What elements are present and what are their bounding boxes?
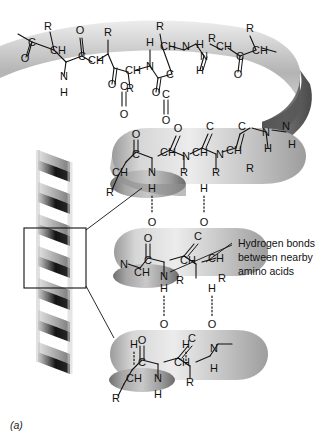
svg-text:H: H	[60, 86, 68, 98]
hydrogen-bond: H O	[160, 282, 169, 330]
svg-text:N: N	[262, 126, 270, 138]
svg-text:H: H	[288, 138, 296, 150]
svg-text:C: C	[162, 88, 170, 100]
svg-text:R: R	[246, 162, 254, 174]
svg-text:CH: CH	[160, 40, 176, 52]
peptide-backbone-linker: C O C O	[120, 80, 171, 126]
svg-text:C: C	[236, 50, 244, 62]
svg-text:C: C	[132, 148, 140, 160]
svg-text:O: O	[148, 216, 157, 228]
svg-text:O: O	[160, 318, 169, 330]
svg-text:O: O	[138, 334, 147, 346]
small-helix-overview	[38, 150, 70, 374]
svg-text:O: O	[21, 52, 30, 64]
svg-text:O: O	[76, 24, 85, 36]
svg-text:R: R	[44, 20, 52, 32]
svg-text:N: N	[148, 166, 156, 178]
svg-text:N: N	[182, 40, 190, 52]
svg-text:CH: CH	[160, 146, 176, 158]
svg-text:R: R	[246, 22, 254, 34]
svg-text:CH: CH	[226, 144, 242, 156]
svg-text:CH: CH	[50, 44, 66, 56]
svg-text:R: R	[180, 166, 188, 178]
svg-text:CH: CH	[125, 64, 141, 76]
svg-text:O: O	[174, 122, 183, 134]
callout-leader-bottom	[86, 286, 114, 338]
svg-text:N: N	[282, 120, 290, 132]
svg-text:N: N	[60, 70, 68, 82]
svg-text:R: R	[112, 392, 120, 404]
svg-text:H: H	[160, 282, 168, 294]
alpha-helix-figure: C O CH R N H O C CH R O CH R H N O C R C…	[0, 0, 331, 446]
svg-text:CH: CH	[208, 252, 224, 264]
svg-text:N: N	[210, 342, 218, 354]
annotation-line-1: Hydrogen bonds	[238, 237, 315, 249]
svg-text:O: O	[120, 108, 129, 120]
svg-text:R: R	[218, 272, 226, 284]
svg-text:H: H	[148, 182, 156, 194]
figure-label: (a)	[10, 419, 23, 431]
svg-text:R: R	[156, 20, 164, 32]
hydrogen-bond: H O	[208, 282, 217, 330]
svg-text:C: C	[206, 120, 214, 132]
svg-text:H: H	[130, 338, 138, 350]
svg-text:O: O	[144, 232, 153, 244]
svg-text:C: C	[144, 254, 152, 266]
svg-text:R: R	[104, 26, 112, 38]
svg-text:N: N	[160, 270, 168, 282]
svg-text:C: C	[138, 356, 146, 368]
svg-text:CH: CH	[174, 356, 190, 368]
svg-text:R: R	[176, 274, 184, 286]
svg-text:H: H	[196, 38, 204, 50]
svg-text:R: R	[208, 32, 216, 44]
svg-text:O: O	[208, 318, 217, 330]
svg-text:H: H	[264, 142, 272, 154]
svg-text:R: R	[186, 376, 194, 388]
svg-text:O: O	[108, 78, 117, 90]
svg-text:O: O	[234, 68, 243, 80]
svg-text:N: N	[216, 148, 224, 160]
svg-text:O: O	[162, 114, 171, 126]
svg-text:R: R	[106, 186, 114, 198]
svg-text:N: N	[146, 60, 154, 72]
svg-text:H: H	[154, 388, 162, 400]
hydrogen-bond: H O	[200, 182, 209, 228]
svg-text:C: C	[120, 80, 128, 92]
svg-text:CH: CH	[192, 146, 208, 158]
callout-leader-top	[86, 188, 142, 230]
svg-text:H: H	[210, 362, 218, 374]
svg-text:N: N	[120, 258, 128, 270]
svg-text:CH: CH	[134, 266, 150, 278]
svg-text:C: C	[28, 36, 36, 48]
svg-text:C: C	[78, 50, 86, 62]
svg-text:CH: CH	[112, 166, 128, 178]
annotation-line-3: amino acids	[238, 265, 294, 277]
svg-text:H: H	[208, 282, 216, 294]
svg-text:R: R	[212, 166, 220, 178]
svg-text:CH: CH	[216, 40, 232, 52]
svg-text:H: H	[196, 64, 204, 76]
svg-text:O: O	[152, 86, 161, 98]
svg-text:C: C	[166, 68, 174, 80]
svg-text:N: N	[182, 150, 190, 162]
svg-text:CH: CH	[88, 54, 104, 66]
svg-text:N: N	[154, 372, 162, 384]
svg-text:N: N	[200, 50, 208, 62]
svg-text:CH: CH	[252, 44, 268, 56]
svg-text:C: C	[238, 120, 246, 132]
svg-text:H: H	[146, 36, 154, 48]
svg-text:O: O	[132, 128, 141, 140]
annotation-line-2: between nearby	[238, 251, 313, 263]
hydrogen-bond: H O	[148, 182, 157, 228]
svg-text:H: H	[200, 182, 208, 194]
svg-text:H: H	[182, 338, 190, 350]
svg-text:C: C	[194, 230, 202, 242]
svg-text:O: O	[200, 216, 209, 228]
svg-text:CH: CH	[126, 372, 142, 384]
